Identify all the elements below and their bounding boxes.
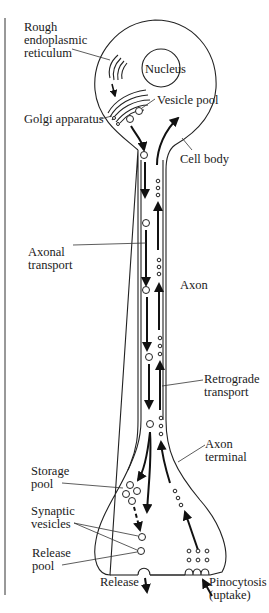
label-axonal-transport: Axonal [28,245,65,259]
label-synaptic-vesicles-2: vesicles [31,517,71,531]
label-storage-pool: Storage [31,464,70,478]
retrograde-vesicles [156,179,183,507]
label-axon-terminal-2: terminal [205,450,247,464]
storage-pool [123,482,141,505]
label-pinocytosis-2: (uptake) [209,588,251,602]
rough-er [109,55,127,80]
synaptic-vesicle [139,534,146,541]
label-rough-er-2: endoplasmic [24,33,88,47]
anterograde-arrow [131,126,144,150]
er-to-golgi-arrow [112,84,115,96]
vesicle [127,116,134,123]
label-release-pool-2: pool [32,559,55,573]
vesicle [136,108,143,115]
label-cell-body: Cell body [180,152,230,166]
label-pinocytosis: Pinocytosis [209,575,267,589]
label-release: Release [100,575,139,589]
label-synaptic-vesicles: Synaptic [31,504,75,518]
label-nucleus: Nucleus [145,62,186,76]
label-golgi: Golgi apparatus [24,112,104,126]
label-storage-pool-2: pool [31,477,54,491]
pinocytosis-pits [185,569,209,575]
label-release-pool: Release [32,546,71,560]
neuron-diagram: Rough endoplasmic reticulum Nucleus Vesi… [0,0,269,613]
release-pool-vesicle [138,548,145,555]
label-vesicle-pool: Vesicle pool [157,93,219,107]
label-axonal-transport-2: transport [28,258,73,272]
label-retrograde-2: transport [204,385,249,399]
release-site [138,568,150,575]
pinocytosis-vesicles [187,549,209,562]
label-rough-er-3: reticulum [24,46,72,60]
label-axon: Axon [180,278,209,292]
label-rough-er: Rough [24,20,58,34]
label-axon-terminal: Axon [205,437,234,451]
label-retrograde: Retrograde [204,372,260,386]
